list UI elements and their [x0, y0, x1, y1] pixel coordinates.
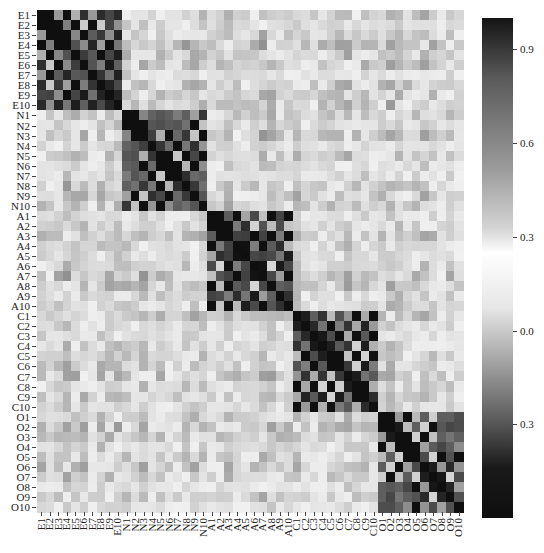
x-tick-mark: [322, 512, 323, 516]
y-tick-mark: [32, 196, 36, 197]
y-tick-mark: [32, 366, 36, 367]
x-tick-mark: [161, 512, 162, 516]
heatmap-cell: [454, 110, 463, 121]
y-tick-label: N2: [17, 121, 30, 131]
y-tick-mark: [32, 115, 36, 116]
heatmap-cell: [454, 70, 463, 81]
y-tick-mark: [32, 105, 36, 106]
heatmap-cell: [454, 181, 463, 192]
y-tick-mark: [32, 316, 36, 317]
y-tick-mark: [32, 256, 36, 257]
colorbar-tick-mark: [513, 49, 517, 50]
heatmap-cell: [454, 301, 463, 312]
x-tick-mark: [297, 512, 298, 516]
y-tick-mark: [32, 336, 36, 337]
y-tick-mark: [32, 286, 36, 287]
x-tick-mark: [340, 512, 341, 516]
colorbar-tick-label: 0.3: [520, 419, 534, 430]
x-tick-mark: [118, 512, 119, 516]
y-tick-mark: [32, 156, 36, 157]
heatmap-cell: [454, 241, 463, 252]
x-tick-mark: [254, 512, 255, 516]
y-tick-mark: [32, 387, 36, 388]
heatmap-cell: [454, 80, 463, 91]
x-tick-mark: [220, 512, 221, 516]
y-tick-mark: [32, 377, 36, 378]
y-tick-mark: [32, 166, 36, 167]
y-tick-label: N1: [17, 110, 30, 120]
colorbar: [482, 18, 513, 518]
x-tick-mark: [357, 512, 358, 516]
y-tick-mark: [32, 407, 36, 408]
y-tick-label: N4: [17, 141, 30, 151]
x-tick-mark: [109, 512, 110, 516]
x-tick-mark: [442, 512, 443, 516]
y-tick-mark: [32, 186, 36, 187]
y-tick-mark: [32, 487, 36, 488]
x-tick-mark: [92, 512, 93, 516]
heatmap-cell: [454, 191, 463, 202]
x-tick-mark: [67, 512, 68, 516]
heatmap-cell: [454, 261, 463, 272]
y-tick-mark: [32, 236, 36, 237]
y-tick-mark: [32, 146, 36, 147]
y-tick-mark: [32, 276, 36, 277]
y-tick-label: N3: [17, 131, 30, 141]
heatmap-cell: [454, 50, 463, 61]
y-tick-mark: [32, 296, 36, 297]
x-tick-mark: [237, 512, 238, 516]
heatmap-cell: [454, 211, 463, 222]
y-tick-label: C7: [17, 372, 30, 382]
x-tick-mark: [331, 512, 332, 516]
x-tick-mark: [433, 512, 434, 516]
x-tick-mark: [169, 512, 170, 516]
colorbar-tick-label: 0.6: [520, 138, 534, 149]
y-tick-mark: [32, 15, 36, 16]
y-tick-mark: [32, 266, 36, 267]
x-tick-mark: [450, 512, 451, 516]
x-tick-mark: [280, 512, 281, 516]
y-tick-mark: [32, 467, 36, 468]
heatmap-cell: [454, 291, 463, 302]
heatmap-cell: [454, 452, 463, 463]
x-tick-mark: [416, 512, 417, 516]
y-tick-label: C9: [17, 392, 30, 402]
y-axis-labels: E1E2E3E4E5E6E7E8E9E10N1N2N3N4N5N6N7N8N9N…: [0, 10, 36, 512]
colorbar-tick-mark: [513, 424, 517, 425]
y-tick-mark: [32, 447, 36, 448]
heatmap-cell: [454, 311, 463, 322]
heatmap-cell: [454, 10, 463, 21]
x-tick-mark: [459, 512, 460, 516]
y-tick-mark: [32, 45, 36, 46]
x-tick-mark: [399, 512, 400, 516]
colorbar-tick-mark: [513, 237, 517, 238]
heatmap-cell: [454, 392, 463, 403]
x-tick-mark: [408, 512, 409, 516]
heatmap-cell: [454, 472, 463, 483]
y-tick-mark: [32, 35, 36, 36]
x-tick-mark: [50, 512, 51, 516]
heatmap-cell: [454, 351, 463, 362]
heatmap-cell: [454, 30, 463, 41]
x-tick-mark: [271, 512, 272, 516]
heatmap-cell: [454, 381, 463, 392]
heatmap-cell: [454, 482, 463, 493]
y-tick-mark: [32, 346, 36, 347]
heatmap-cell: [454, 141, 463, 152]
colorbar-tick-label: 0.9: [520, 44, 534, 55]
y-tick-mark: [32, 507, 36, 508]
x-tick-mark: [186, 512, 187, 516]
x-tick-mark: [314, 512, 315, 516]
heatmap-cell: [454, 120, 463, 131]
y-tick-mark: [32, 65, 36, 66]
heatmap-cell: [454, 201, 463, 212]
y-tick-mark: [32, 95, 36, 96]
heatmap-cell: [454, 251, 463, 262]
y-tick-mark: [32, 427, 36, 428]
y-tick-mark: [32, 326, 36, 327]
x-tick-mark: [246, 512, 247, 516]
y-tick-mark: [32, 226, 36, 227]
heatmap-cell: [454, 151, 463, 162]
heatmap-cell: [454, 412, 463, 423]
y-tick-mark: [32, 437, 36, 438]
